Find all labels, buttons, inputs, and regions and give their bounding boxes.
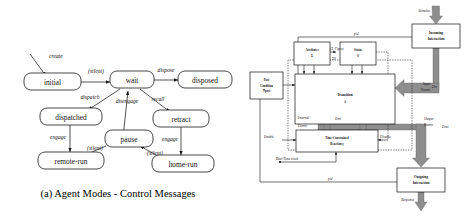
label-sigma-theta: Σθ [332, 57, 336, 61]
output-events-arrow [413, 124, 430, 167]
state-initial[interactable]: initial [24, 73, 81, 90]
attributes-line2: Σ [311, 54, 313, 58]
status-line1: Status [354, 48, 363, 52]
state-disposed[interactable]: disposed [178, 71, 232, 88]
postcondition-line3: Ψpost [263, 89, 271, 93]
state-label-initial: initial [44, 78, 61, 87]
label-sigma-in: Σin [432, 85, 437, 89]
edge-label-recall: recall [152, 96, 165, 102]
state-dispatched[interactable]: dispatched [40, 108, 102, 125]
edge-label-engage-right: engage [162, 136, 179, 142]
edge-label-silent-initial: (silent) [88, 68, 104, 75]
label-response: Response [400, 198, 414, 202]
left-panel-agent-modes: create (silent) dispose dispatch disenga… [0, 0, 236, 220]
state-label-wait: wait [126, 76, 140, 85]
edge-label-dispatch: dispatch [81, 94, 100, 100]
outgoing-interaction-line2: Interaction [413, 181, 430, 185]
state-label-disposed: disposed [192, 76, 218, 85]
state-label-home-run: home-run [169, 160, 198, 169]
label-input-events-1: Input [422, 82, 431, 86]
label-output-events-1: Output [424, 117, 434, 121]
incoming-interaction-line1: Incoming [429, 31, 443, 35]
postcondition-line1: Post [264, 78, 270, 82]
label-pid-top: pid [353, 32, 359, 36]
block-post-condition[interactable]: Post Condition Ψpost [250, 72, 283, 99]
state-machine-svg: create (silent) dispose dispatch disenga… [0, 0, 236, 220]
label-pid-bottom: pid [327, 177, 333, 181]
block-attributes[interactable]: Attributes Σ [294, 42, 330, 65]
reaction-line2: Reaction γ [330, 142, 344, 146]
block-transition[interactable]: Transition λ [295, 74, 395, 124]
output-bus-horizontal [362, 124, 421, 130]
label-stimulus: Stimulus [418, 9, 430, 13]
state-label-pause: pause [121, 135, 139, 144]
figure-root: create (silent) dispose dispatch disenga… [0, 0, 472, 220]
block-status[interactable]: Status θ [340, 42, 376, 65]
edge-label-silent-remote: (silent) [87, 145, 103, 152]
state-retract[interactable]: retract [153, 110, 209, 127]
edge-label-dispose: dispose [158, 67, 175, 73]
transition-line2: λ [344, 100, 346, 104]
label-internal-events-1: Internal [297, 116, 309, 120]
block-time-constrained-reaction[interactable]: Time-Constrained Reaction γ [296, 130, 378, 152]
label-output-events-2: Events [423, 123, 434, 127]
state-label-remote-run: remote-run [55, 157, 88, 166]
label-sigma-out: Σout [442, 125, 449, 129]
right-panel-agent-architecture: Incoming Interaction Outgoing Interactio… [236, 0, 472, 220]
incoming-interaction-line2: Interaction [428, 37, 445, 41]
realtime-clock-dot [279, 161, 281, 163]
label-input-events-2: Events [420, 88, 431, 92]
edge-label-engage-left: engage [50, 134, 67, 140]
edge-label-create: create [49, 53, 63, 59]
attributes-line1: Attributes [305, 48, 319, 52]
reaction-line1: Time-Constrained [325, 136, 349, 140]
block-outgoing-interaction[interactable]: Outgoing Interaction [397, 168, 445, 192]
transition-line1: Transition [337, 93, 353, 97]
state-label-retract: retract [172, 115, 192, 124]
label-disable: Disable [379, 135, 391, 139]
state-home-run[interactable]: home-run [152, 155, 214, 172]
label-enable: Enable [263, 135, 274, 139]
architecture-svg: Incoming Interaction Outgoing Interactio… [236, 0, 472, 220]
label-real-time-clock: Real-Time clock [275, 157, 298, 161]
block-incoming-interaction[interactable]: Incoming Interaction [412, 24, 460, 48]
edge-label-disengage: disengage [116, 98, 139, 104]
state-label-dispatched: dispatched [55, 113, 87, 122]
state-pause[interactable]: pause [105, 130, 153, 147]
figure-caption-a: (a) Agent Modes - Control Messages [41, 188, 196, 200]
label-internal-events-2: Events [297, 124, 308, 128]
state-remote-run[interactable]: remote-run [38, 152, 104, 169]
outgoing-interaction-line1: Outgoing [414, 175, 428, 179]
postcondition-line2: Condition [260, 84, 273, 88]
response-arrow [415, 192, 427, 211]
state-wait[interactable]: wait [110, 71, 154, 88]
stimulus-arrow [430, 6, 443, 24]
